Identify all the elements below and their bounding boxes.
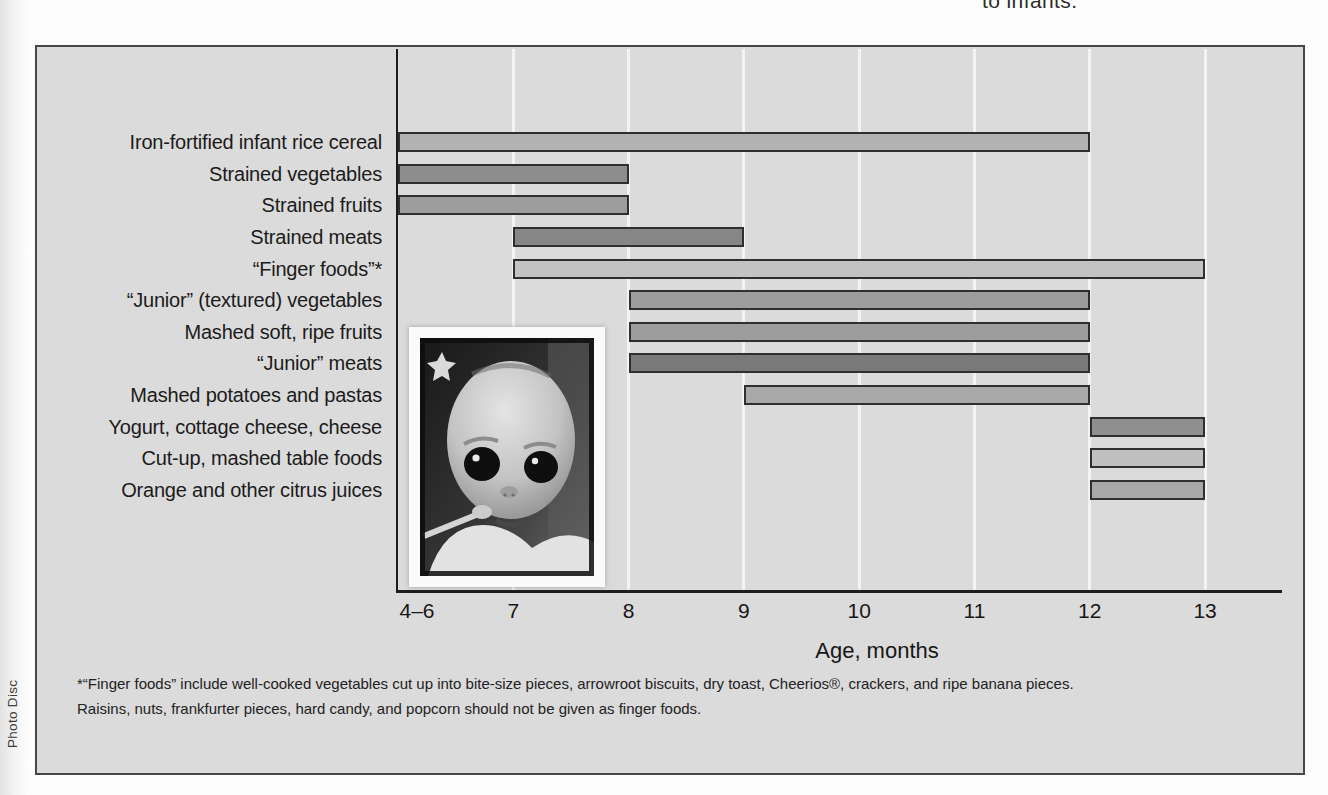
spoon-bowl — [472, 505, 492, 519]
row-label: Yogurt, cottage cheese, cheese — [37, 416, 382, 438]
x-tick-10: 10 — [848, 599, 871, 623]
chart-bar — [744, 385, 1090, 405]
chart-bar — [629, 322, 1090, 342]
nostril-right — [511, 493, 514, 496]
gridline-month-13 — [1204, 49, 1207, 590]
x-tick-4–6: 4–6 — [399, 599, 434, 623]
y-axis-line — [396, 49, 398, 593]
chart-bar — [1090, 448, 1205, 468]
x-tick-12: 12 — [1078, 599, 1101, 623]
gridline-month-11 — [973, 49, 976, 590]
row-label: “Junior” (textured) vegetables — [37, 289, 382, 311]
row-label: Orange and other citrus juices — [37, 479, 382, 501]
row-label: Strained vegetables — [37, 163, 382, 185]
row-label: “Finger foods”* — [37, 258, 382, 280]
row-label: Mashed potatoes and pastas — [37, 384, 382, 406]
footnote-line-2: Raisins, nuts, frankfurter pieces, hard … — [77, 699, 1237, 719]
baby-photo — [409, 327, 605, 587]
nostril-left — [503, 493, 506, 496]
eye-highlight-right — [532, 458, 538, 464]
gridline-month-8 — [627, 49, 630, 590]
gridline-month-10 — [858, 49, 861, 590]
x-tick-13: 13 — [1193, 599, 1216, 623]
row-label: Iron-fortified infant rice cereal — [37, 131, 382, 153]
baby-photo-svg — [420, 338, 594, 576]
footnote-line-1: *“Finger foods” include well-cooked vege… — [77, 674, 1237, 694]
chart-bar — [1090, 480, 1205, 500]
row-label: “Junior” meats — [37, 352, 382, 374]
chart-bar — [513, 227, 744, 247]
gridline-month-9 — [742, 49, 745, 590]
baby-nose — [500, 486, 518, 498]
x-tick-7: 7 — [507, 599, 519, 623]
row-label: Strained meats — [37, 226, 382, 248]
chart-bar — [513, 259, 1205, 279]
baby-eye-left — [464, 447, 500, 481]
page-edge-shading — [0, 0, 28, 795]
chart-bar — [629, 290, 1090, 310]
row-label: Cut-up, mashed table foods — [37, 447, 382, 469]
photo-credit: Photo Disc — [5, 680, 20, 748]
cropped-caption-text: to infants. — [982, 0, 1112, 13]
x-tick-8: 8 — [623, 599, 635, 623]
eye-highlight-left — [472, 454, 479, 461]
chart-bar — [398, 195, 629, 215]
cropped-caption-fragment: to infants. — [982, 0, 1112, 13]
baby-eye-right — [524, 451, 558, 483]
chart-bar — [398, 164, 629, 184]
chart-bar — [1090, 417, 1205, 437]
chart-bar — [629, 353, 1090, 373]
x-axis-title: Age, months — [815, 638, 939, 664]
row-label: Strained fruits — [37, 194, 382, 216]
row-label: Mashed soft, ripe fruits — [37, 321, 382, 343]
x-axis-line — [396, 590, 1282, 593]
gridline-month-12 — [1088, 49, 1091, 590]
x-tick-9: 9 — [738, 599, 750, 623]
chart-bar — [398, 132, 1090, 152]
x-tick-11: 11 — [964, 599, 986, 623]
infant-food-introduction-chart: Age, months *“Finger foods” include well… — [35, 45, 1305, 775]
